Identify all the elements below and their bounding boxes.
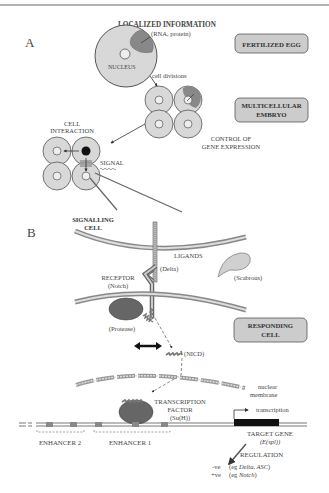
- cell-divisions-label: cell divisions: [152, 72, 187, 79]
- enhancer-1-bracket: [94, 430, 170, 432]
- nucleus-label: NUCLEUS: [108, 64, 136, 70]
- svg-text:FERTILIZED EGG: FERTILIZED EGG: [242, 41, 301, 48]
- transcription-label: transcription: [256, 406, 290, 413]
- zoom-line-right: [95, 173, 182, 212]
- control-label-1: CONTROL OF: [211, 135, 252, 142]
- signal-label: SIGNAL: [100, 159, 124, 166]
- stage-box-multicellular-embryo: MULTICELLULAR EMBRYO: [235, 98, 308, 122]
- enhancer-site: [95, 422, 102, 427]
- enhancer-2-bracket: [37, 430, 84, 432]
- delta-ligand: [153, 222, 157, 282]
- scabrous-label: (Scabrous): [234, 274, 262, 282]
- target-gene-name: (E(spl)): [260, 438, 280, 446]
- negative-regulation-line: -ve (eg Delta, ASC): [212, 463, 270, 471]
- cell-interaction-1: CELL: [64, 120, 80, 127]
- nicd: [166, 351, 182, 355]
- nuclear-membrane-label-1: nuclear: [258, 383, 278, 390]
- responding-cell-membrane: [75, 294, 246, 310]
- svg-text:EMBRYO: EMBRYO: [256, 111, 286, 118]
- stage-box-responding-cell: RESPONDING CELL: [234, 318, 307, 342]
- regulation-label: REGULATION: [240, 451, 283, 458]
- arrow-to-interaction: [111, 124, 145, 143]
- signalling-cell-2: CELL: [84, 224, 102, 231]
- target-gene-label: TARGET GENE: [247, 430, 293, 437]
- target-gene-bar: [234, 419, 279, 426]
- enhancer-2-label: ENHANCER 2: [39, 439, 82, 446]
- enhancer-site: [132, 422, 139, 427]
- enhancer-site: [46, 422, 53, 427]
- notch-cleaved-fragment: [143, 314, 150, 322]
- localized-info-sub: (RNA, protein): [151, 30, 191, 38]
- svg-text:MULTICELLULAR: MULTICELLULAR: [241, 102, 301, 109]
- tf-label-1: TRANSCRIPTION: [154, 398, 206, 405]
- enhancer-site: [70, 422, 77, 427]
- positive-regulation-line: +ve (eg Notch): [211, 471, 257, 479]
- protease-label: (Protease): [109, 325, 135, 333]
- notch-label: (Notch): [108, 282, 128, 290]
- zoom-line-left: [90, 178, 117, 210]
- nuclear-membrane-label-2: membrane: [250, 391, 278, 398]
- enhancer-1-label: ENHANCER 1: [109, 439, 151, 446]
- svg-text:-ve: -ve: [212, 463, 220, 470]
- svg-text:(eg Notch): (eg Notch): [229, 471, 257, 479]
- four-cell-embryo: [145, 86, 202, 138]
- tf-label-3: (Su(H)): [170, 414, 190, 422]
- double-arrow: [134, 342, 162, 350]
- signal-squiggle: [100, 168, 116, 170]
- nicd-label: (NICD): [184, 350, 204, 358]
- delta-label: (Delta): [160, 265, 178, 273]
- control-label-2: GENE EXPRESSION: [202, 143, 261, 150]
- tf-label-2: FACTOR: [167, 406, 193, 413]
- signalling-cell-1: SIGNALLING: [72, 216, 114, 223]
- nucleus: [120, 49, 130, 59]
- transcription-arrow: [234, 410, 248, 419]
- ligands-label: LIGANDS: [174, 252, 203, 259]
- signalling-cell-membrane: [75, 231, 246, 248]
- panel-a-letter: A: [25, 35, 35, 50]
- fertilized-egg: NUCLEUS: [95, 25, 157, 87]
- svg-text:CELL: CELL: [261, 331, 280, 338]
- diagram: A LOCALIZED INFORMATION (RNA, protein) N…: [0, 0, 329, 493]
- svg-text:(eg Delta, ASC): (eg Delta, ASC): [229, 463, 270, 471]
- nuclear-membrane: [76, 376, 245, 388]
- svg-text:+ve: +ve: [211, 471, 221, 478]
- interacting-cells: [43, 137, 100, 190]
- receptor-label: RECEPTOR: [101, 274, 135, 281]
- dna: [19, 419, 307, 427]
- cell-interaction-2: INTERACTION: [50, 127, 94, 134]
- stage-box-fertilized-egg: FERTILIZED EGG: [235, 34, 308, 53]
- transcription-factor-suh: [119, 400, 153, 424]
- protease: [109, 298, 143, 320]
- svg-text:RESPONDING: RESPONDING: [248, 322, 294, 329]
- panel-b-letter: B: [27, 225, 36, 240]
- enhancer-site: [161, 422, 168, 427]
